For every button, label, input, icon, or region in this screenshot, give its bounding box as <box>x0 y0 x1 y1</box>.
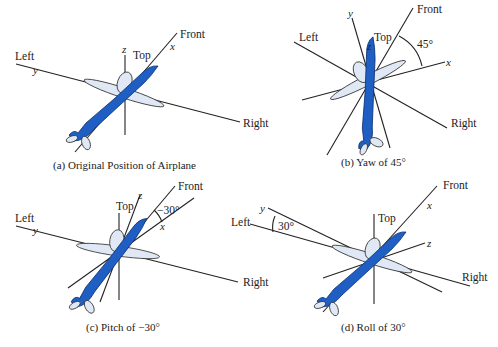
x-axis-label: x <box>159 220 165 232</box>
x-axis-label: x <box>426 199 432 211</box>
z-axis-label: z <box>121 43 127 55</box>
right-label: Right <box>451 117 477 130</box>
top-label: Top <box>133 49 151 62</box>
z-axis-label: z <box>426 237 432 249</box>
y-axis-label: y <box>32 64 38 76</box>
front-label: Front <box>443 179 469 191</box>
left-label: Left <box>231 216 251 228</box>
y-axis-label: y <box>347 7 353 19</box>
y-axis-label: y <box>32 224 38 236</box>
angle-label: −30° <box>157 204 180 216</box>
caption-d: (d) Roll of 30° <box>341 321 406 334</box>
panel-d: Front x Top z y Left 30° Right (d) Roll … <box>231 179 488 334</box>
top-label: Top <box>374 31 392 44</box>
top-label: Top <box>116 200 134 213</box>
panel-c: Front Top z −30° x Left y Right (c) Pitc… <box>15 180 269 334</box>
left-label: Left <box>299 31 319 43</box>
y-axis-label: y <box>259 202 265 214</box>
front-label: Front <box>417 3 443 15</box>
left-label: Left <box>15 50 35 62</box>
right-label: Right <box>243 117 269 130</box>
angle-label: 30° <box>278 220 295 232</box>
airplane-rotation-figure: Front x Top z Left y Right (a) Original … <box>0 0 498 347</box>
caption-a: (a) Original Position of Airplane <box>53 159 196 172</box>
z-axis-label: z <box>366 40 372 52</box>
front-label: Front <box>178 180 204 192</box>
x-axis-label: x <box>445 56 451 68</box>
angle-arc <box>273 216 275 232</box>
panel-a: Front x Top z Left y Right (a) Original … <box>15 28 269 172</box>
front-label: Front <box>180 28 206 40</box>
angle-label: 45° <box>417 38 434 50</box>
x-axis-label: x <box>169 40 175 52</box>
right-label: Right <box>462 271 488 284</box>
top-label: Top <box>378 212 396 225</box>
left-label: Left <box>15 212 35 224</box>
caption-b: (b) Yaw of 45° <box>341 156 406 169</box>
caption-c: (c) Pitch of −30° <box>86 321 160 334</box>
panel-b: Front Left Top y z x 45° Right (b) Yaw o… <box>294 3 477 169</box>
z-axis-label: z <box>137 189 143 201</box>
right-label: Right <box>243 276 269 289</box>
